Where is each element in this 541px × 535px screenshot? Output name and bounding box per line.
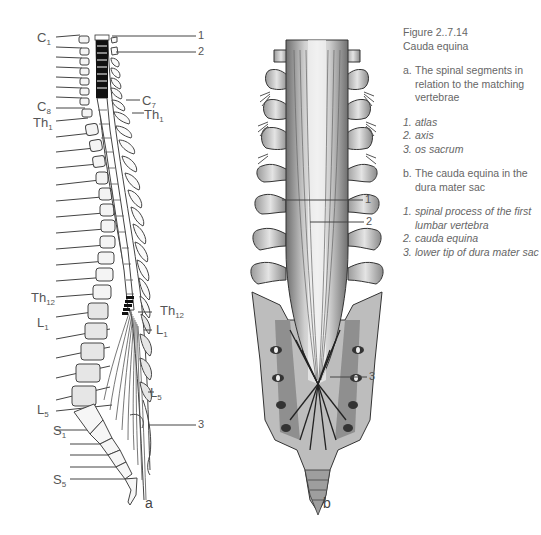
spine-segments-drawing [0, 0, 235, 535]
cervical-cord-black [95, 35, 109, 98]
vertebral-bodies [72, 36, 115, 406]
label-th12-left: Th12 [31, 291, 55, 307]
label-th1-left: Th1 [33, 116, 53, 132]
callout-b-1: 1 [365, 194, 371, 205]
label-l5-right: L5 [150, 386, 162, 402]
label-l1-left: L1 [37, 316, 49, 332]
part-b-key: b. [403, 167, 415, 194]
part-b-item: 3. lower tip of dura mater sac [403, 246, 541, 260]
figure-a: C1 C8 Th1 Th12 L1 L5 S1 S5 C7 Th1 Th12 L… [0, 0, 235, 535]
part-a-item: 1. atlas [403, 116, 541, 130]
part-a-text: The spinal segments in relation to the m… [415, 64, 541, 105]
panel-label-b: b [323, 496, 331, 510]
figure-title: Cauda equina [403, 40, 541, 54]
part-a-description: a. The spinal segments in relation to th… [403, 64, 541, 105]
label-th12-right: Th12 [160, 304, 184, 320]
callout-a-1: 1 [198, 30, 204, 41]
label-th1-right: Th1 [144, 108, 164, 124]
callout-b-3: 3 [369, 371, 375, 382]
figure-number: Figure 2..7.14 [403, 26, 541, 40]
figure-caption: Figure 2..7.14 Cauda equina a. The spina… [403, 26, 541, 259]
part-a-key: a. [403, 64, 415, 105]
part-b-description: b. The cauda equina in the dura mater sa… [403, 167, 541, 194]
panel-label-a: a [145, 496, 153, 510]
callout-a-2: 2 [198, 46, 204, 57]
part-a-item: 3. os sacrum [403, 143, 541, 157]
part-b-item: 1. spinal process of the first lumbar ve… [403, 205, 541, 232]
part-b-text: The cauda equina in the dura mater sac [415, 167, 541, 194]
part-b-item: 2. cauda equina [403, 232, 541, 246]
callout-b-2: 2 [366, 216, 372, 227]
label-c1: C1 [37, 31, 51, 47]
part-a-item: 2. axis [403, 129, 541, 143]
label-s5: S5 [53, 473, 66, 489]
label-l1-right: L1 [156, 323, 168, 339]
cauda-equina-illustration [230, 0, 405, 535]
figure-b: 1 2 3 b [230, 0, 405, 535]
label-c8: C8 [37, 100, 51, 116]
label-s1: S1 [53, 424, 66, 440]
label-l5-left: L5 [37, 403, 49, 419]
callout-a-3: 3 [198, 419, 204, 430]
